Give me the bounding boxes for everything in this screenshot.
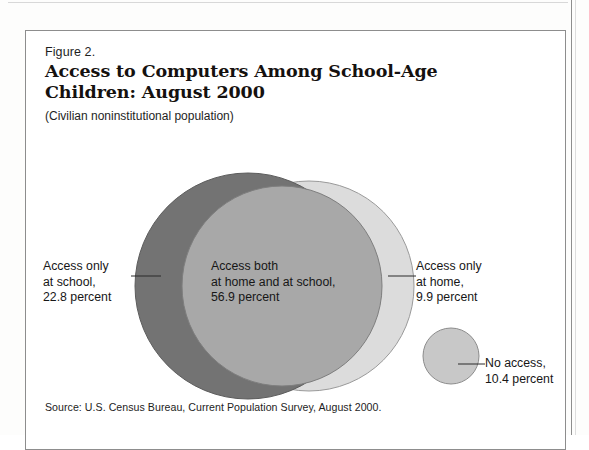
callout-access-only-at-school: Access only at school, 22.8 percent xyxy=(43,259,111,306)
source-note: Source: U.S. Census Bureau, Current Popu… xyxy=(45,401,381,413)
page-right-edge-line xyxy=(571,0,572,435)
circle-no-access xyxy=(423,328,479,384)
chart-svg xyxy=(26,31,567,401)
proportional-circle-chart xyxy=(26,31,567,401)
callout-access-both: Access both at home and at school, 56.9 … xyxy=(211,259,335,306)
page-top-edge xyxy=(8,2,568,3)
page-right-edge-line-secondary xyxy=(575,0,576,435)
callout-no-access: No access, 10.4 percent xyxy=(485,356,553,387)
figure-frame: Figure 2. Access to Computers Among Scho… xyxy=(25,30,566,450)
callout-access-only-at-home: Access only at home, 9.9 percent xyxy=(416,259,482,306)
